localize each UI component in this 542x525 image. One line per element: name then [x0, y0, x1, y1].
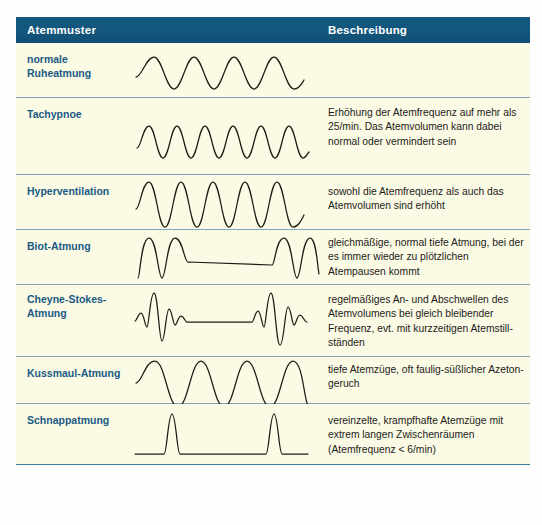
table-row: Cheyne-Stokes- Atmung regelmäßiges An- u… [16, 285, 530, 357]
table-row: Tachypnoe Erhöhung der Atemfrequenz auf … [16, 98, 530, 175]
waveform-schnappatmung [132, 404, 327, 464]
pattern-name-kussmaul-atmung: Kussmaul-Atmung [27, 366, 147, 380]
breathing-patterns-table: Atemmuster Beschreibung normale Ruheatmu… [16, 17, 530, 465]
pattern-description-biot-atmung: gleichmäßige, normal tiefe Atmung, bei d… [328, 236, 524, 279]
waveform-normale-ruheatmung [132, 43, 327, 97]
column-header-atemmuster: Atemmuster [16, 24, 96, 36]
pattern-name-line1: Cheyne-Stokes- [27, 292, 147, 306]
pattern-description-cheyne-stokes-atmung: regelmäßiges An- und Abschwellen des Ate… [328, 293, 524, 350]
waveform-tachypnoe [132, 98, 327, 174]
pattern-name-line1: normale [27, 52, 147, 66]
table-row: Kussmaul-Atmung tiefe Atemzüge, oft faul… [16, 357, 530, 404]
pattern-name-hyperventilation: Hyperventilation [27, 184, 147, 198]
waveform-hyperventilation [132, 175, 327, 229]
pattern-name-cheyne-stokes-atmung: Cheyne-Stokes- Atmung [27, 292, 147, 320]
pattern-name-biot-atmung: Biot-Atmung [27, 239, 147, 253]
pattern-name-schnappatmung: Schnappatmung [27, 413, 147, 427]
pattern-description-kussmaul-atmung: tiefe Atemzüge, oft faulig-süßlicher Aze… [328, 363, 524, 392]
pattern-description-tachypnoe: Erhöhung der Atemfrequenz auf mehr als 2… [328, 106, 524, 149]
pattern-description-hyperventilation: sowohl die Atemfrequenz als auch das Ate… [328, 185, 524, 214]
waveform-biot-atmung [132, 230, 327, 284]
table-row: Schnappatmung vereinzelte, krampfhafte A… [16, 404, 530, 465]
table-header-row: Atemmuster Beschreibung [16, 17, 530, 43]
table-row: Hyperventilation sowohl die Atemfrequenz… [16, 175, 530, 230]
column-header-beschreibung: Beschreibung [328, 24, 407, 36]
breathing-patterns-figure: Atemmuster Beschreibung normale Ruheatmu… [0, 0, 542, 525]
pattern-name-tachypnoe: Tachypnoe [27, 107, 147, 121]
pattern-description-schnappatmung: vereinzelte, krampfhafte Atemzüge mit ex… [328, 414, 524, 457]
table-row: Biot-Atmung gleichmäßige, normal tiefe A… [16, 230, 530, 285]
pattern-name-line2: Atmung [27, 306, 147, 320]
waveform-kussmaul-atmung [132, 357, 327, 403]
pattern-name-normale-ruheatmung: normale Ruheatmung [27, 52, 147, 80]
table-row: normale Ruheatmung [16, 43, 530, 98]
pattern-name-line2: Ruheatmung [27, 66, 147, 80]
waveform-cheyne-stokes-atmung [132, 285, 327, 356]
